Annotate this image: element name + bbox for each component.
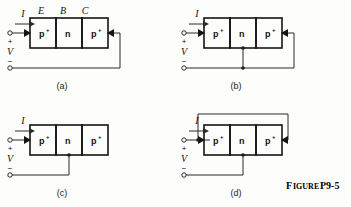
wire-base-return-c: [12, 155, 69, 175]
figure-caption-f: F: [286, 180, 292, 191]
current-label-d: I: [194, 115, 199, 126]
region-label-base-d: n: [239, 136, 245, 146]
region-label-emitter-b: p: [213, 29, 219, 39]
region-label-collector-a: p: [91, 29, 97, 39]
current-arrow-head-d: [203, 128, 209, 134]
junction-dot-base-d: [241, 153, 245, 157]
minus-sign-b: −: [182, 57, 187, 66]
region-sup-emitter-d: +: [220, 134, 224, 140]
terminal-label-base: B: [60, 5, 66, 16]
region-label-emitter-d: p: [213, 136, 219, 146]
region-label-collector-b: p: [265, 29, 271, 39]
current-label-a: I: [20, 8, 25, 19]
minus-sign-d: −: [182, 164, 187, 173]
panel-caption-d: (d): [231, 188, 242, 198]
region-sup-collector-a: +: [98, 27, 102, 33]
region-label-base-b: n: [239, 29, 245, 39]
region-sup-collector-b: +: [272, 27, 276, 33]
region-label-base-c: n: [65, 136, 71, 146]
terminal-label-emitter: E: [37, 5, 44, 16]
region-label-base-a: n: [65, 29, 71, 39]
plus-sign-d: +: [182, 144, 187, 153]
junction-dot-base-c: [67, 153, 71, 157]
figure-caption: F IGURE P9-5: [286, 180, 339, 191]
terminal-positive-d: [182, 138, 186, 142]
voltage-label-a: V: [7, 46, 15, 57]
terminal-label-collector: C: [82, 5, 89, 16]
current-arrow-head-c: [29, 128, 35, 134]
region-label-emitter-a: p: [39, 29, 45, 39]
region-sup-emitter-c: +: [46, 134, 50, 140]
current-label-b: I: [194, 8, 199, 19]
plus-sign-b: +: [182, 37, 187, 46]
minus-sign-a: −: [8, 57, 13, 66]
junction-dot-bottom-b: [241, 66, 245, 70]
junction-dot-emitter-d: [196, 138, 200, 142]
panel-b: p + n p + I + V − (b): [181, 8, 294, 91]
current-arrow-head-b: [203, 21, 209, 27]
figure-p9-5: E B C p + n p + I + V − (a): [0, 0, 351, 207]
terminal-negative-c: [8, 173, 12, 177]
plus-sign-a: +: [8, 37, 13, 46]
region-sup-emitter-a: +: [46, 27, 50, 33]
current-arrow-head-a: [29, 21, 35, 27]
region-label-collector-d: p: [265, 136, 271, 146]
panel-caption-b: (b): [231, 81, 242, 91]
figure-caption-number: P9-5: [320, 180, 339, 191]
region-sup-emitter-b: +: [220, 27, 224, 33]
terminal-positive-b: [182, 31, 186, 35]
region-label-emitter-c: p: [39, 136, 45, 146]
terminal-negative-d: [182, 173, 186, 177]
terminal-negative-b: [182, 66, 186, 70]
figure-caption-word: IGURE: [293, 182, 319, 191]
voltage-label-b: V: [181, 46, 189, 57]
plus-sign-c: +: [8, 144, 13, 153]
terminal-positive-c: [8, 138, 12, 142]
terminal-negative-a: [8, 66, 12, 70]
terminal-positive-a: [8, 31, 12, 35]
voltage-label-c: V: [7, 153, 15, 164]
minus-sign-c: −: [8, 164, 13, 173]
voltage-label-d: V: [181, 153, 189, 164]
region-label-collector-c: p: [91, 136, 97, 146]
region-sup-collector-d: +: [272, 134, 276, 140]
panel-d: p + n p + I + V − (d): [181, 114, 288, 198]
panel-c: p + n p + I + V − (c): [7, 115, 108, 198]
panel-a: E B C p + n p + I + V − (a): [7, 5, 120, 91]
junction-dot-base-b: [241, 46, 245, 50]
panel-caption-a: (a): [57, 81, 68, 91]
figure-canvas: E B C p + n p + I + V − (a): [0, 0, 351, 207]
wire-base-return-d: [186, 155, 243, 175]
panel-caption-c: (c): [57, 188, 68, 198]
current-label-c: I: [20, 115, 25, 126]
region-sup-collector-c: +: [98, 134, 102, 140]
